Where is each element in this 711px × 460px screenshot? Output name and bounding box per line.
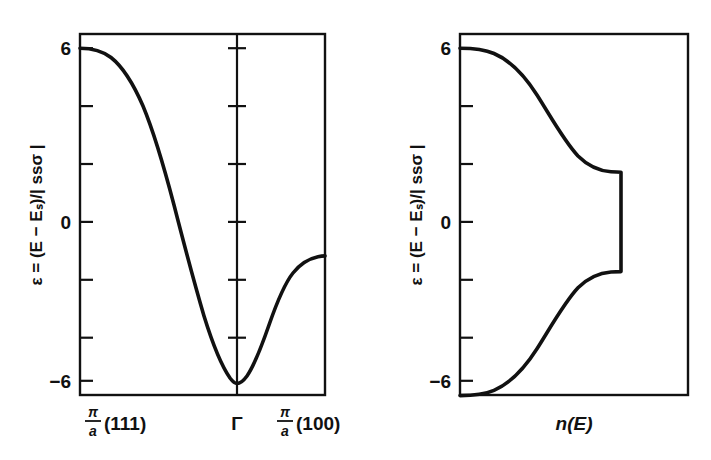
right-ytick-label-6: 6 xyxy=(440,38,451,59)
density-of-states-curve xyxy=(460,48,621,395)
right-ytick-label-0: 0 xyxy=(440,212,451,233)
density-of-states-panel: 6 0 −6 ε = (E − Eₛ)/| ssσ | n(E) xyxy=(0,0,711,460)
right-y-axis-title: ε = (E − Eₛ)/| ssσ | xyxy=(407,144,426,285)
right-y-axis-ticks xyxy=(460,48,473,381)
right-plot-frame xyxy=(460,34,688,395)
right-x-axis-title: n(E) xyxy=(556,413,593,434)
right-ytick-label-minus6: −6 xyxy=(429,371,451,392)
figure-container: 6 0 −6 ε = (E − Eₛ)/| ssσ | π a (111) Γ … xyxy=(0,0,711,460)
